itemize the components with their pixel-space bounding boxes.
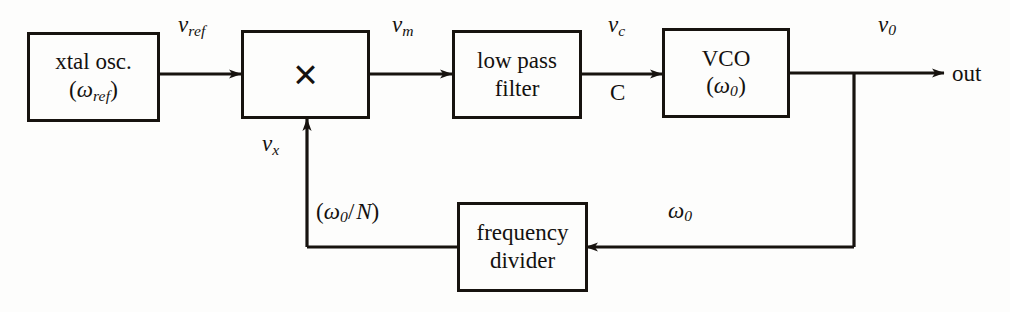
divider-line1: frequency: [477, 220, 569, 246]
label-v-x: vx: [262, 131, 279, 159]
block-xtal-oscillator[interactable]: xtal osc. (ωref): [27, 32, 160, 122]
lpf-line2: filter: [495, 76, 540, 102]
label-omega-zero-feedback: ω0: [668, 198, 692, 225]
divider-line2: divider: [490, 248, 555, 274]
label-v-zero: v0: [878, 12, 896, 39]
block-frequency-divider[interactable]: frequency divider: [457, 202, 588, 292]
block-vco[interactable]: VCO (ω0): [662, 28, 790, 118]
label-v-m: vm: [392, 12, 414, 40]
label-omega-zero-over-n: (ω0/ N): [316, 199, 379, 226]
vco-line1: VCO: [702, 46, 751, 72]
label-out: out: [952, 61, 981, 87]
omega-ref-subscript: ref: [93, 87, 110, 104]
lpf-line1: low pass: [477, 48, 557, 74]
label-v-c: vc: [608, 12, 625, 40]
label-node-c: C: [610, 80, 625, 106]
omega-symbol-ref: ω: [77, 77, 93, 102]
pll-block-diagram: xtal osc. (ωref) × low pass filter VCO (…: [0, 0, 1010, 312]
block-multiplier[interactable]: ×: [241, 30, 370, 119]
block-low-pass-filter[interactable]: low pass filter: [452, 30, 582, 119]
multiply-icon: ×: [293, 54, 318, 96]
vco-line2: (ω0): [706, 73, 746, 100]
omega-zero-subscript: 0: [730, 83, 738, 100]
omega-symbol-zero: ω: [714, 73, 730, 98]
xtal-osc-line2: (ωref): [69, 77, 118, 105]
label-v-ref: vref: [178, 12, 206, 40]
xtal-osc-line1: xtal osc.: [55, 49, 132, 75]
